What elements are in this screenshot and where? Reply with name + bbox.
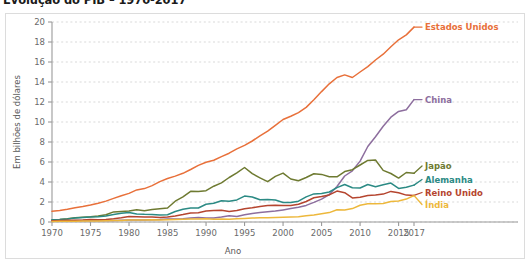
x-tick-label: 2000 bbox=[272, 228, 294, 238]
x-tick-label: 1970 bbox=[41, 228, 63, 238]
chart-card: 02468101214161820 1970197519801985199019… bbox=[5, 13, 525, 259]
y-tick-label: 16 bbox=[34, 57, 45, 67]
series-label-índia: Índia bbox=[425, 199, 449, 210]
page-title: Evolução do PIB – 1970-2017 bbox=[3, 0, 186, 7]
x-tick-label: 1995 bbox=[234, 228, 256, 238]
y-tick-label: 20 bbox=[34, 17, 45, 27]
y-tick-label: 6 bbox=[40, 157, 45, 167]
series-label-reino-unido: Reino Unido bbox=[425, 188, 483, 198]
series-label-alemanha: Alemanha bbox=[425, 175, 473, 185]
x-tick-label: 2010 bbox=[349, 228, 371, 238]
x-tick-label: 1985 bbox=[157, 228, 179, 238]
y-axis-title: Em bilhões de dólares bbox=[12, 74, 22, 168]
y-tick-label: 4 bbox=[40, 177, 45, 187]
x-tick-label: 1990 bbox=[195, 228, 217, 238]
y-tick-label: 10 bbox=[34, 117, 45, 127]
y-tick-label: 14 bbox=[34, 77, 45, 87]
x-axis-ticks: 1970197519801985199019952000200520102015… bbox=[41, 222, 425, 238]
x-axis-title: Ano bbox=[225, 246, 241, 256]
series-leader-índia bbox=[414, 196, 422, 205]
line-chart-svg: 02468101214161820 1970197519801985199019… bbox=[6, 14, 524, 258]
x-tick-label: 2017 bbox=[403, 228, 425, 238]
series-label-china: China bbox=[425, 95, 452, 105]
series-line-estados-unidos bbox=[52, 27, 414, 211]
x-tick-label: 2005 bbox=[311, 228, 333, 238]
y-tick-label: 12 bbox=[34, 97, 45, 107]
data-series-group bbox=[52, 27, 414, 221]
chart-figure: Evolução do PIB – 1970-2017 024681012141… bbox=[0, 0, 531, 266]
series-leader-japão bbox=[414, 166, 422, 173]
series-labels-group: Estados UnidosChinaJapãoAlemanhaReino Un… bbox=[414, 22, 498, 209]
series-line-china bbox=[52, 100, 414, 222]
series-label-estados-unidos: Estados Unidos bbox=[425, 22, 498, 32]
x-tick-label: 1980 bbox=[118, 228, 140, 238]
y-tick-label: 18 bbox=[34, 37, 45, 47]
series-label-japão: Japão bbox=[424, 161, 452, 171]
chart-title-strip: Evolução do PIB – 1970-2017 bbox=[0, 0, 531, 12]
series-line-índia bbox=[52, 196, 414, 222]
y-axis-ticks: 02468101214161820 bbox=[34, 17, 52, 227]
series-leader-reino-unido bbox=[414, 193, 422, 196]
y-tick-label: 8 bbox=[40, 137, 45, 147]
y-tick-label: 2 bbox=[40, 197, 45, 207]
y-tick-label: 0 bbox=[40, 217, 45, 227]
x-tick-label: 1975 bbox=[80, 228, 102, 238]
